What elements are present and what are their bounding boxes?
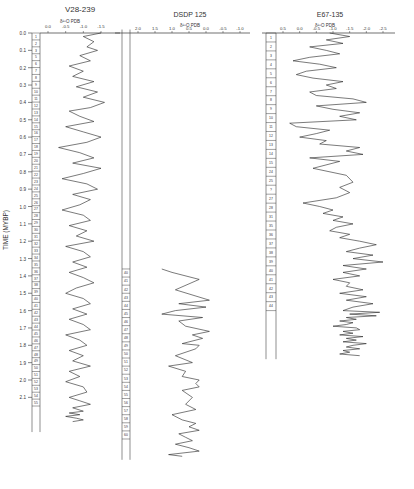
stage-label: 35 [269,224,273,228]
stage-label: 52 [34,380,38,384]
isotope-figure: TIME (MYBP) 0.00.10.20.30.40.50.60.70.80… [0,0,414,489]
stage-label: 51 [124,360,128,364]
isotope-curve [290,33,383,356]
stage-label: 44 [34,325,38,329]
stage-label: 5 [35,55,37,59]
isotope-curve [162,269,210,456]
stage-label: 7 [270,90,272,94]
stage-label: 12 [269,134,273,138]
stage-label: 57 [124,409,128,413]
stage-label: 37 [269,242,273,246]
panel-2: 0.50.0-0.5-1.0-1.5-2.0-2.512345678910111… [262,26,395,359]
x-tick-label: -0.5 [219,26,227,31]
stage-label: 25 [269,179,273,183]
stage-label: 40 [124,271,128,275]
stage-label: 13 [269,143,273,147]
x-tick-label: -1.5 [97,24,105,29]
x-tick-label: -0.5 [62,24,70,29]
stage-label: 36 [34,270,38,274]
stage-label: 59 [124,425,128,429]
x-tick-label: -1.0 [236,26,244,31]
time-tick-label: 1.6 [20,309,27,314]
stage-label: 39 [269,260,273,264]
stage-label: 11 [34,97,38,101]
x-tick-label: 1.5 [152,26,159,31]
stage-label: 9 [35,83,37,87]
stage-label: 21 [34,166,38,170]
stage-label: 52 [124,368,128,372]
x-tick-label: -2.0 [363,26,371,31]
stage-label: 40 [269,269,273,273]
stage-label: 27 [34,207,38,211]
stage-label: 11 [269,125,273,129]
stage-label: 4 [270,63,272,67]
stage-label: 13 [34,111,38,115]
stage-label: 1 [270,36,272,40]
stage-label: 8 [35,76,37,80]
stage-label: 10 [34,90,38,94]
time-tick-label: 0.3 [20,83,27,88]
stage-label: 8 [270,98,272,102]
stage-label: 53 [34,387,38,391]
time-tick-label: 1.0 [20,205,27,210]
x-tick-label: 2.0 [135,26,142,31]
time-tick-label: 0.8 [20,170,27,175]
x-tick-label: -0.5 [313,26,321,31]
stage-label: 55 [34,401,38,405]
x-tick-label: 0.5 [280,26,287,31]
stage-label: 27 [269,197,273,201]
time-tick-label: 1.5 [20,291,27,296]
stage-label: 24 [269,170,273,174]
stage-label: 41 [269,278,273,282]
stage-label: 38 [269,251,273,255]
stage-label: 5 [270,72,272,76]
time-tick-label: 2.0 [20,378,27,383]
stage-label: 28 [269,206,273,210]
x-tick-label: 1.0 [169,26,176,31]
stage-label: 32 [34,242,38,246]
y-axis-label: TIME (MYBP) [2,210,10,250]
stage-label: 25 [34,194,38,198]
stage-label: 53 [124,377,128,381]
stage-label: 15 [269,161,273,165]
stage-label: 54 [124,385,128,389]
panel-title-dsdp-125: DSDP 125 [174,11,207,18]
stage-label: 58 [124,417,128,421]
stage-label: 26 [34,201,38,205]
stage-label: 60 [124,433,128,437]
stage-label: 3 [35,49,37,53]
stage-label: 34 [34,256,38,260]
stage-label: 31 [34,235,38,239]
time-tick-label: 1.2 [20,239,27,244]
time-tick-label: 0.5 [20,118,27,123]
time-tick-label: 1.7 [20,326,27,331]
stage-label: 43 [269,295,273,299]
stage-label: 7 [35,69,37,73]
panel-1: 2.01.51.00.50.0-0.5-1.040414243444546474… [115,26,250,460]
stage-label: 44 [269,304,273,308]
stage-label: 37 [34,277,38,281]
stage-label: 47 [34,346,38,350]
stage-label: 22 [34,173,38,177]
stage-label: 42 [34,311,38,315]
stage-label: 46 [34,339,38,343]
stage-label: 44 [124,304,128,308]
stage-label: 6 [270,81,272,85]
stage-label: 56 [124,401,128,405]
stage-label: 19 [34,152,38,156]
x-tick-label: 0.0 [297,26,304,31]
time-tick-label: 1.4 [20,274,27,279]
stage-label: 33 [34,249,38,253]
stage-label: 55 [124,393,128,397]
time-axis: 0.00.10.20.30.40.50.60.70.80.91.01.11.21… [20,31,32,400]
x-tick-label: 0.5 [186,26,193,31]
x-tick-label: -2.5 [379,26,387,31]
panel-title-e67-135: E67-135 [317,11,344,18]
stage-label: 16 [34,131,38,135]
stage-label: 3 [270,54,272,58]
stage-label: 45 [34,332,38,336]
stage-label: 18 [34,145,38,149]
stage-label: 42 [269,287,273,291]
stage-label: 23 [34,180,38,184]
x-tick-label: -1.0 [329,26,337,31]
